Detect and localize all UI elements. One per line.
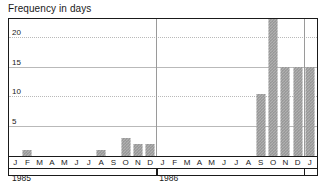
bar: [146, 144, 155, 156]
year-divider-trailing: [304, 169, 305, 175]
month-tick-label: F: [169, 157, 181, 168]
chart-plot-frame: 5101520 JFMAMJJASONDJFMAMJJASONDJ 198519…: [8, 18, 318, 176]
bar-slot: [83, 19, 95, 156]
bar: [281, 67, 290, 156]
frequency-bar-chart: Frequency in days 5101520 JFMAMJJASONDJF…: [0, 0, 326, 195]
bar-slot: [169, 19, 181, 156]
bar-slot: [58, 19, 70, 156]
bar-slot: [144, 19, 156, 156]
month-tick-label: A: [46, 157, 58, 168]
month-tick-label: O: [120, 157, 132, 168]
month-tick-label: S: [255, 157, 267, 168]
bar-slot: [95, 19, 107, 156]
month-tick-label: M: [58, 157, 70, 168]
month-tick-label: D: [144, 157, 156, 168]
bar-slot: [46, 19, 58, 156]
bar-slot: [107, 19, 119, 156]
bar-slot: [9, 19, 21, 156]
bar-slot: [279, 19, 291, 156]
bar-slot: [218, 19, 230, 156]
month-tick-label: N: [279, 157, 291, 168]
month-tick-label: N: [132, 157, 144, 168]
month-tick-label: O: [267, 157, 279, 168]
x-axis-month-labels: JFMAMJJASONDJFMAMJJASONDJ: [9, 156, 317, 169]
period-divider: [156, 19, 157, 156]
month-tick-label: A: [193, 157, 205, 168]
bar-slot: [267, 19, 279, 156]
bar-slot: [181, 19, 193, 156]
bar-slot: [132, 19, 144, 156]
month-tick-label: J: [156, 157, 168, 168]
bar: [256, 94, 265, 157]
bar-slot: [205, 19, 217, 156]
bar-slot: [156, 19, 168, 156]
month-tick-label: J: [218, 157, 230, 168]
month-tick-label: F: [21, 157, 33, 168]
month-tick-label: A: [242, 157, 254, 168]
x-axis-year-labels: 19851986: [9, 169, 317, 175]
bar-slot: [120, 19, 132, 156]
bar-slot: [255, 19, 267, 156]
bar-slot: [230, 19, 242, 156]
bar: [293, 67, 302, 156]
bar: [121, 138, 130, 156]
month-tick-label: M: [34, 157, 46, 168]
month-tick-label: J: [70, 157, 82, 168]
bar: [133, 144, 142, 156]
month-tick-label: J: [230, 157, 242, 168]
year-divider: [156, 169, 157, 175]
month-tick-label: S: [107, 157, 119, 168]
period-divider-trailing: [304, 19, 305, 156]
bars-group: [9, 19, 317, 156]
bar-slot: [291, 19, 303, 156]
month-tick-label: J: [9, 157, 21, 168]
bar-slot: [21, 19, 33, 156]
month-tick-label: A: [95, 157, 107, 168]
year-label-1986: 1986: [159, 173, 178, 183]
month-tick-label: J: [304, 157, 316, 168]
month-tick-label: M: [205, 157, 217, 168]
year-label-1985: 1985: [12, 173, 31, 183]
bar-slot: [304, 19, 316, 156]
bar-slot: [193, 19, 205, 156]
bar-slot: [34, 19, 46, 156]
month-tick-label: M: [181, 157, 193, 168]
bar: [305, 67, 314, 156]
bar: [269, 19, 278, 156]
bar-slot: [70, 19, 82, 156]
bar-slot: [242, 19, 254, 156]
month-tick-label: J: [83, 157, 95, 168]
month-tick-label: D: [291, 157, 303, 168]
chart-title: Frequency in days: [8, 3, 91, 15]
plot-area: 5101520: [9, 19, 317, 156]
